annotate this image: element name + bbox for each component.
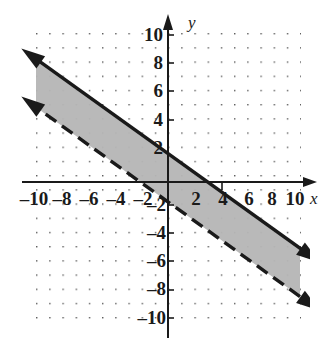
y-axis-label: y <box>186 13 196 32</box>
x-tick-label: –8 <box>52 188 72 209</box>
y-tick-label: 8 <box>154 52 164 73</box>
x-axis-arrow <box>303 177 317 187</box>
y-tick-label: 6 <box>154 80 164 101</box>
x-tick-label: –6 <box>79 188 99 209</box>
y-tick-label: 10 <box>144 24 163 45</box>
x-tick-label: 8 <box>267 188 277 209</box>
x-tick-label: –10 <box>19 188 49 209</box>
x-tick-label: 4 <box>218 188 228 209</box>
y-axis-arrow <box>163 14 173 30</box>
y-tick-label: –2 <box>146 194 166 215</box>
x-tick-label: 10 <box>286 188 305 209</box>
x-tick-label: 2 <box>191 188 201 209</box>
y-tick-label: –4 <box>146 222 167 243</box>
y-tick-label: –8 <box>146 278 166 299</box>
x-tick-label: –4 <box>106 188 127 209</box>
x-axis-label: x <box>309 189 318 208</box>
graph-canvas: –10 –8 –6 –4 –2 2 4 6 8 10 10 8 6 4 2 –2… <box>0 0 327 344</box>
y-tick-label: 4 <box>154 109 164 130</box>
coordinate-plane-svg: –10 –8 –6 –4 –2 2 4 6 8 10 10 8 6 4 2 –2… <box>0 0 327 344</box>
y-tick-label: –6 <box>146 250 166 271</box>
y-tick-label: 2 <box>154 137 164 158</box>
x-tick-label: 6 <box>244 188 254 209</box>
y-tick-label: –10 <box>137 307 167 328</box>
